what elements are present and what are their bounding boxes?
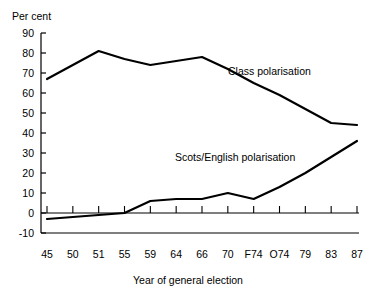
- x-axis-ticks: [47, 206, 357, 213]
- y-tick-label: 50: [6, 108, 34, 119]
- series-label-scots-english-polarisation: Scots/English polarisation: [175, 152, 295, 163]
- y-tick-label: 70: [6, 68, 34, 79]
- y-tick-label: 30: [6, 148, 34, 159]
- y-tick-label: 10: [6, 188, 34, 199]
- y-tick-label: 80: [6, 48, 34, 59]
- series-line-class-polarisation: [47, 51, 357, 125]
- y-tick-label: 0: [6, 208, 34, 219]
- x-tick-label: 87: [339, 249, 375, 260]
- y-tick-label: 20: [6, 168, 34, 179]
- axis-lines: [41, 33, 359, 233]
- y-tick-label: 90: [6, 28, 34, 39]
- y-axis-ticks: [41, 33, 46, 233]
- y-tick-label: 60: [6, 88, 34, 99]
- line-chart: Per cent 9080706050403020100-10 45505155…: [0, 0, 376, 299]
- y-tick-label: -10: [6, 228, 34, 239]
- y-tick-label: 40: [6, 128, 34, 139]
- x-axis-title: Year of general election: [0, 275, 376, 286]
- series-label-class-polarisation: Class polarisation: [228, 66, 311, 77]
